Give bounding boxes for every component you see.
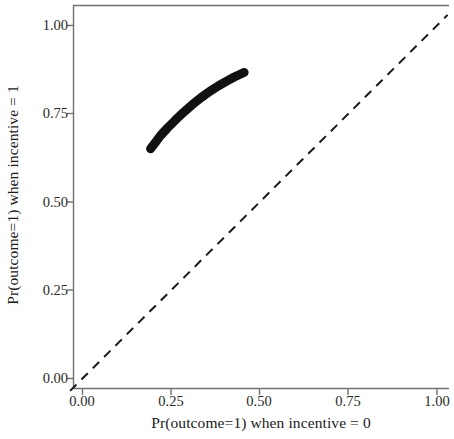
- estimated-response-curve: [151, 72, 245, 148]
- x-axis-title: Pr(outcome=1) when incentive = 0: [73, 414, 449, 432]
- x-tick-label-1: 0.00: [52, 393, 112, 410]
- y-axis-title: Pr(outcome=1) when incentive = 1: [0, 0, 26, 390]
- x-tick-label-3: 0.50: [229, 393, 289, 410]
- x-tick-label-4: 0.75: [318, 393, 378, 410]
- identity-reference-line: [70, 15, 448, 391]
- x-tick-label-2: 0.25: [141, 393, 201, 410]
- x-tick-label-5: 1.00: [407, 393, 454, 410]
